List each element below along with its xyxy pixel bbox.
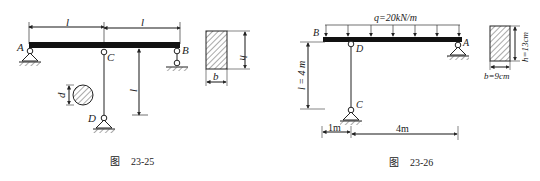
label-d: D — [355, 43, 364, 54]
dim-span-left: l — [66, 16, 69, 28]
label-d: D — [87, 112, 96, 124]
label-a: A — [16, 41, 24, 53]
label-a: A — [462, 37, 470, 48]
dim-section-b: b — [213, 70, 219, 82]
caption-number: 23-25 — [131, 156, 154, 167]
diagram-canvas: l l A B C D l d — [0, 0, 540, 181]
beam-ab — [29, 42, 180, 48]
label-c: C — [107, 51, 115, 63]
figure-23-25: l l A B C D l d — [16, 16, 250, 167]
dim-diameter: d — [55, 92, 67, 98]
label-b: B — [182, 44, 189, 56]
dim-column-length: l = 4 m — [296, 61, 307, 90]
dim-section-h: h=13cm — [520, 31, 530, 62]
dim-span-right: l — [141, 16, 144, 28]
pin-d-icon — [348, 41, 354, 47]
label-b: B — [313, 27, 319, 38]
caption-number: 23-26 — [410, 157, 433, 168]
dim-right-span: 4m — [396, 123, 409, 134]
circular-section — [73, 85, 93, 105]
beam-ba — [323, 37, 462, 42]
label-c: C — [356, 99, 363, 110]
dim-section-h: h — [238, 55, 250, 61]
figure-23-26: q=20kN/m B A D C — [296, 12, 530, 168]
load-label: q=20kN/m — [374, 12, 417, 23]
pin-c-icon — [101, 49, 107, 55]
caption-prefix: 图 — [110, 156, 120, 167]
dim-section-b: b=9cm — [484, 71, 510, 81]
caption-prefix: 图 — [389, 157, 399, 168]
rect-section — [490, 26, 510, 61]
rect-section — [206, 31, 227, 69]
dim-column-length: l — [127, 89, 139, 92]
dim-left-offset: 1m — [328, 122, 341, 133]
pin-b-icon — [174, 48, 180, 54]
